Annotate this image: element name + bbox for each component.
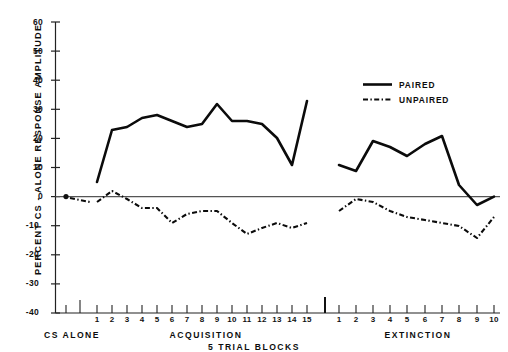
x-tick-label-ext-3: 3 — [366, 315, 380, 324]
cs-alone-data-point — [63, 194, 68, 199]
y-tick-label-neg20: -20 — [17, 249, 39, 259]
section-label-acquisition: ACQUISITION — [146, 330, 266, 340]
x-ticks-extinction — [339, 305, 494, 313]
paired-acquisition-line — [97, 101, 307, 182]
x-tick-label-acq-6: 6 — [165, 315, 179, 324]
x-tick-label-acq-4: 4 — [135, 315, 149, 324]
x-tick-label-ext-1: 1 — [332, 315, 346, 324]
series-unpaired — [70, 191, 494, 238]
x-tick-label-ext-5: 5 — [400, 315, 414, 324]
x-tick-label-acq-14: 14 — [285, 315, 299, 324]
x-tick-label-ext-8: 8 — [452, 315, 466, 324]
y-tick-label-neg30: -30 — [17, 278, 39, 288]
y-tick-label-10: 10 — [21, 162, 43, 172]
unpaired-extinction-line — [339, 199, 494, 238]
y-tick-label-60: 60 — [21, 17, 43, 27]
y-tick-label-0: 0 — [21, 191, 43, 201]
legend-swatches — [363, 85, 392, 100]
y-tick-label-neg10: -10 — [17, 220, 39, 230]
x-tick-label-ext-4: 4 — [383, 315, 397, 324]
x-tick-label-acq-2: 2 — [105, 315, 119, 324]
y-tick-label-neg40: -40 — [17, 307, 39, 317]
x-tick-label-acq-5: 5 — [150, 315, 164, 324]
unpaired-lead-in-line — [70, 198, 90, 202]
x-tick-label-acq-1: 1 — [90, 315, 104, 324]
x-tick-label-acq-13: 13 — [270, 315, 284, 324]
x-axis — [56, 297, 501, 313]
x-ticks-acquisition — [97, 305, 307, 313]
y-tick-label-40: 40 — [21, 75, 43, 85]
x-tick-label-acq-12: 12 — [255, 315, 269, 324]
x-tick-label-acq-11: 11 — [240, 315, 254, 324]
y-tick-label-30: 30 — [21, 104, 43, 114]
series-paired — [97, 101, 494, 205]
section-label-cs-alone: CS ALONE — [37, 330, 107, 340]
legend-label-paired: PAIRED — [399, 80, 435, 90]
x-tick-label-ext-10: 10 — [487, 315, 501, 324]
x-tick-label-acq-7: 7 — [180, 315, 194, 324]
x-tick-label-acq-9: 9 — [210, 315, 224, 324]
y-tick-label-50: 50 — [21, 46, 43, 56]
paired-extinction-line — [339, 136, 494, 205]
legend-label-unpaired: UNPAIRED — [399, 95, 449, 105]
x-tick-label-ext-6: 6 — [418, 315, 432, 324]
x-tick-label-acq-3: 3 — [120, 315, 134, 324]
x-tick-label-acq-8: 8 — [195, 315, 209, 324]
x-tick-label-ext-7: 7 — [435, 315, 449, 324]
unpaired-acquisition-line — [97, 191, 307, 234]
x-tick-label-acq-15: 15 — [300, 315, 314, 324]
y-tick-label-20: 20 — [21, 133, 43, 143]
section-label-extinction: EXTINCTION — [358, 330, 478, 340]
x-axis-title: 5 TRIAL BLOCKS — [184, 342, 324, 352]
x-tick-label-ext-2: 2 — [349, 315, 363, 324]
x-tick-label-acq-10: 10 — [225, 315, 239, 324]
plot-area — [0, 0, 508, 352]
x-tick-label-ext-9: 9 — [470, 315, 484, 324]
x-ticks-cs-alone — [66, 300, 80, 313]
chart-figure: PERCENT CS - ALONE RESPONSE AMPLITUDE — [0, 0, 508, 352]
y-axis — [51, 22, 60, 313]
